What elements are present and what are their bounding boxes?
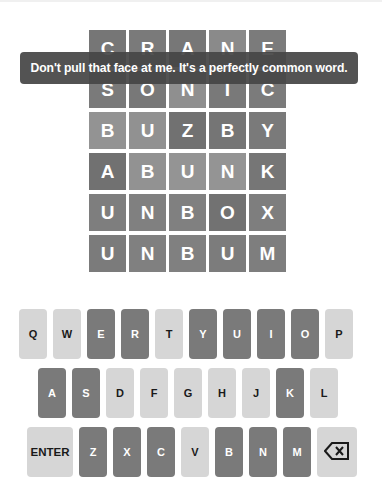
board-row: BUZBY: [89, 112, 286, 149]
backspace-icon: [324, 442, 350, 462]
letter-tile: M: [249, 235, 286, 272]
letter-tile: U: [169, 153, 206, 190]
backspace-key[interactable]: [317, 427, 357, 477]
key-g[interactable]: G: [174, 368, 202, 418]
letter-tile: K: [249, 153, 286, 190]
letter-tile: Y: [249, 112, 286, 149]
key-b[interactable]: B: [215, 427, 243, 477]
key-m[interactable]: M: [283, 427, 311, 477]
toast-text: Don't pull that face at me. It's a perfe…: [30, 61, 347, 75]
letter-tile: N: [129, 235, 166, 272]
letter-tile: X: [249, 194, 286, 231]
letter-tile: B: [209, 112, 246, 149]
key-h[interactable]: H: [208, 368, 236, 418]
letter-tile: Z: [169, 112, 206, 149]
key-s[interactable]: S: [72, 368, 100, 418]
board-row: UNBOX: [89, 194, 286, 231]
key-y[interactable]: Y: [189, 309, 217, 359]
key-o[interactable]: O: [291, 309, 319, 359]
letter-tile: U: [89, 194, 126, 231]
board-row: ABUNK: [89, 153, 286, 190]
letter-tile: U: [209, 235, 246, 272]
letter-tile: N: [209, 153, 246, 190]
letter-tile: B: [129, 153, 166, 190]
key-d[interactable]: D: [106, 368, 134, 418]
letter-tile: B: [169, 194, 206, 231]
keyboard-row: ASDFGHJKL: [38, 368, 338, 418]
key-t[interactable]: T: [155, 309, 183, 359]
keyboard-row: QWERTYUIOP: [19, 309, 353, 359]
key-i[interactable]: I: [257, 309, 285, 359]
key-n[interactable]: N: [249, 427, 277, 477]
key-f[interactable]: F: [140, 368, 168, 418]
letter-tile: B: [169, 235, 206, 272]
key-l[interactable]: L: [310, 368, 338, 418]
letter-tile: N: [129, 194, 166, 231]
top-divider: [0, 0, 382, 2]
key-z[interactable]: Z: [79, 427, 107, 477]
letter-tile: U: [89, 235, 126, 272]
letter-tile: A: [89, 153, 126, 190]
board-row: UNBUM: [89, 235, 286, 272]
key-c[interactable]: C: [147, 427, 175, 477]
key-k[interactable]: K: [276, 368, 304, 418]
enter-key[interactable]: ENTER: [27, 427, 73, 477]
key-e[interactable]: E: [87, 309, 115, 359]
key-v[interactable]: V: [181, 427, 209, 477]
key-p[interactable]: P: [325, 309, 353, 359]
keyboard-row: ENTERZXCVBNM: [27, 427, 357, 477]
letter-tile: B: [89, 112, 126, 149]
key-u[interactable]: U: [223, 309, 251, 359]
key-q[interactable]: Q: [19, 309, 47, 359]
key-w[interactable]: W: [53, 309, 81, 359]
key-x[interactable]: X: [113, 427, 141, 477]
letter-tile: O: [209, 194, 246, 231]
key-j[interactable]: J: [242, 368, 270, 418]
toast-message: Don't pull that face at me. It's a perfe…: [20, 52, 358, 84]
key-a[interactable]: A: [38, 368, 66, 418]
letter-tile: U: [129, 112, 166, 149]
key-r[interactable]: R: [121, 309, 149, 359]
